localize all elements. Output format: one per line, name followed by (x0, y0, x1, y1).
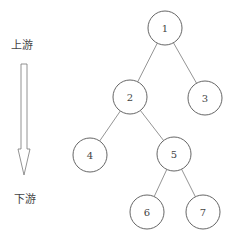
tree-edge (173, 43, 196, 83)
flow-arrow-icon (18, 64, 30, 175)
tree-node-1: 1 (148, 11, 182, 45)
node-label: 6 (144, 207, 150, 218)
node-label: 3 (202, 93, 208, 104)
node-label: 2 (127, 92, 133, 103)
tree-node-5: 5 (157, 137, 191, 171)
tree-edge (100, 111, 121, 141)
tree-edge (140, 110, 163, 140)
node-label: 7 (200, 207, 206, 218)
tree-edge (154, 169, 167, 196)
node-label: 1 (162, 23, 168, 34)
tree-edge (138, 43, 158, 82)
node-label: 5 (171, 149, 177, 160)
tree-node-6: 6 (130, 195, 164, 229)
tree-node-3: 3 (188, 81, 222, 115)
tree-node-2: 2 (113, 80, 147, 114)
tree-node-4: 4 (73, 138, 107, 172)
tree-diagram: 1234567 (0, 0, 229, 239)
tree-node-7: 7 (186, 195, 220, 229)
node-label: 4 (87, 150, 93, 161)
tree-edge (182, 169, 196, 197)
